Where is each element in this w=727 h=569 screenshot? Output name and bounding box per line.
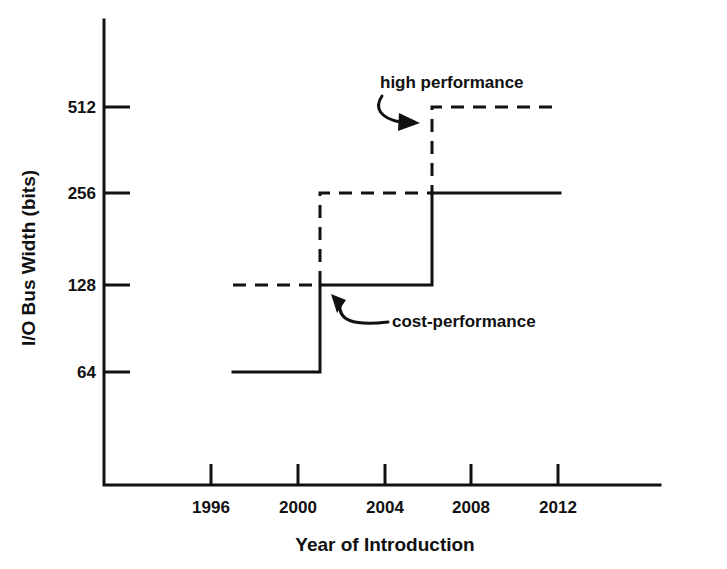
y-tick-label-512: 512 — [68, 98, 96, 117]
x-tick-label-2004: 2004 — [366, 498, 404, 517]
y-axis-title: I/O Bus Width (bits) — [18, 170, 39, 346]
y-tick-label-64: 64 — [77, 363, 96, 382]
annotation-high-performance-arrowhead — [398, 113, 420, 131]
x-tick-marks — [211, 464, 558, 485]
annotation-cost-performance-arrowhead — [331, 294, 346, 313]
x-tick-label-2008: 2008 — [452, 498, 490, 517]
annotation-high-performance-arrow — [379, 96, 400, 122]
series-high-performance — [233, 107, 560, 285]
x-axis-title: Year of Introduction — [295, 534, 474, 555]
y-tick-label-256: 256 — [68, 184, 96, 203]
annotation-high-performance: high performance — [379, 73, 524, 131]
x-tick-label-2012: 2012 — [539, 498, 577, 517]
y-tick-labels: 512 256 128 64 — [68, 98, 97, 382]
chart-canvas: 512 256 128 64 1996 2000 2004 2008 2012 … — [0, 0, 727, 569]
y-tick-label-128: 128 — [68, 276, 96, 295]
chart-figure: 512 256 128 64 1996 2000 2004 2008 2012 … — [0, 0, 727, 569]
x-tick-label-2000: 2000 — [279, 498, 317, 517]
series-cost-performance — [233, 193, 560, 372]
series-cost-performance-line — [233, 193, 560, 372]
annotation-cost-performance: cost-performance — [331, 294, 536, 331]
series-high-performance-line — [233, 107, 560, 285]
annotation-cost-performance-arrow — [340, 304, 388, 323]
annotation-high-performance-label: high performance — [380, 73, 524, 92]
x-tick-label-1996: 1996 — [192, 498, 230, 517]
annotation-cost-performance-label: cost-performance — [392, 312, 536, 331]
y-tick-marks — [104, 107, 130, 372]
x-tick-labels: 1996 2000 2004 2008 2012 — [192, 498, 577, 517]
